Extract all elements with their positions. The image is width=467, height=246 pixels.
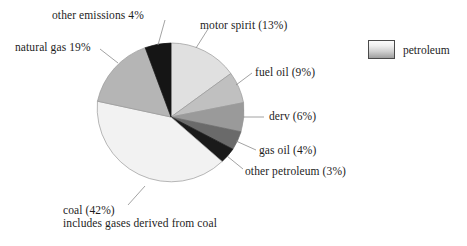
leader-line-other-petroleum: [227, 156, 243, 169]
slice-label-coal: coal (42%): [63, 204, 115, 217]
slice-label-derv: derv (6%): [269, 110, 316, 123]
slice-label-motor-spirit: motor spirit (13%): [200, 19, 287, 32]
legend-label-petroleum: petroleum: [403, 44, 450, 56]
slice-label-other-petroleum: other petroleum (3%): [245, 165, 346, 178]
slice-label-gas-oil: gas oil (4%): [259, 144, 316, 157]
leader-line-coal: [128, 186, 145, 205]
leader-line-other-emissions: [158, 20, 165, 45]
slice-label-fuel-oil: fuel oil (9%): [255, 66, 315, 79]
pie-chart-figure: other emissions 4% motor spirit (13%) na…: [0, 0, 467, 246]
legend: petroleum: [368, 40, 450, 59]
leader-line-natural-gas: [100, 49, 118, 63]
petroleum-swatch-icon: [368, 40, 395, 59]
leader-line-gas-oil: [236, 141, 256, 150]
slice-label-natural-gas: natural gas 19%: [15, 41, 91, 54]
pie-slices: [97, 43, 244, 182]
slice-label-other-emissions: other emissions 4%: [52, 9, 144, 22]
leader-line-fuel-oil: [236, 73, 252, 85]
coal-note: includes gases derived from coal: [63, 217, 217, 230]
